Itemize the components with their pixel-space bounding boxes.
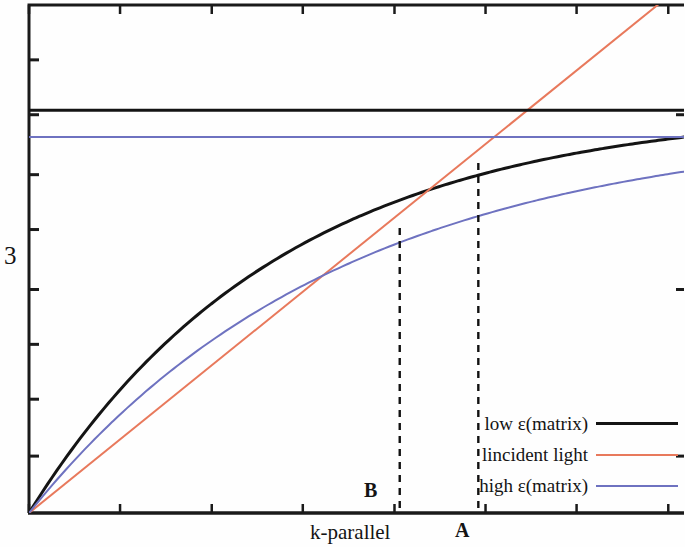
annotation-label-b: B — [364, 479, 377, 502]
legend-label-low-eps: low ε(matrix) — [485, 413, 588, 435]
legend-label-incident-light: lincident light — [482, 444, 588, 466]
legend-item-incident-light: lincident light — [446, 439, 678, 470]
legend-item-low-eps: low ε(matrix) — [446, 408, 678, 439]
legend: low ε(matrix) lincident light high ε(mat… — [446, 408, 678, 501]
annotation-label-a: A — [455, 519, 469, 542]
legend-swatch-low-eps — [596, 422, 678, 425]
legend-swatch-high-eps — [596, 485, 678, 487]
legend-swatch-incident-light — [596, 454, 678, 456]
legend-label-high-eps: high ε(matrix) — [479, 475, 588, 497]
y-axis-label: 3 — [4, 242, 17, 270]
x-axis-label: k-parallel — [310, 520, 390, 545]
legend-item-high-eps: high ε(matrix) — [446, 470, 678, 501]
dispersion-plot-figure: 3 k-parallel A B low ε(matrix) lincident… — [0, 0, 685, 547]
